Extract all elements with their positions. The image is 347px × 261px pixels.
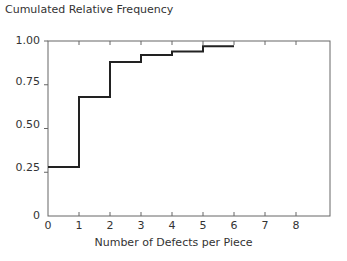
x-tick-label: 7	[255, 219, 275, 232]
step-line	[48, 46, 234, 167]
x-tick-label: 5	[193, 219, 213, 232]
y-tick-label: 0	[0, 209, 40, 222]
chart-area: Cumulated Relative Frequency 0 0.25 0.50…	[0, 0, 347, 261]
x-tick-label: 1	[69, 219, 89, 232]
x-axis-label: Number of Defects per Piece	[0, 236, 347, 249]
chart-title: Cumulated Relative Frequency	[5, 3, 173, 16]
y-tick-label: 0.25	[0, 161, 40, 174]
axis-ticks	[44, 41, 296, 216]
x-tick-label: 2	[100, 219, 120, 232]
x-tick-label: 3	[131, 219, 151, 232]
x-tick-label: 4	[162, 219, 182, 232]
y-tick-label: 0.75	[0, 75, 40, 88]
y-tick-label: 0.50	[0, 118, 40, 131]
x-tick-label: 8	[286, 219, 306, 232]
y-tick-label: 1.00	[0, 34, 40, 47]
x-tick-label: 0	[38, 219, 58, 232]
x-tick-label: 6	[224, 219, 244, 232]
plot-frame	[48, 41, 330, 216]
